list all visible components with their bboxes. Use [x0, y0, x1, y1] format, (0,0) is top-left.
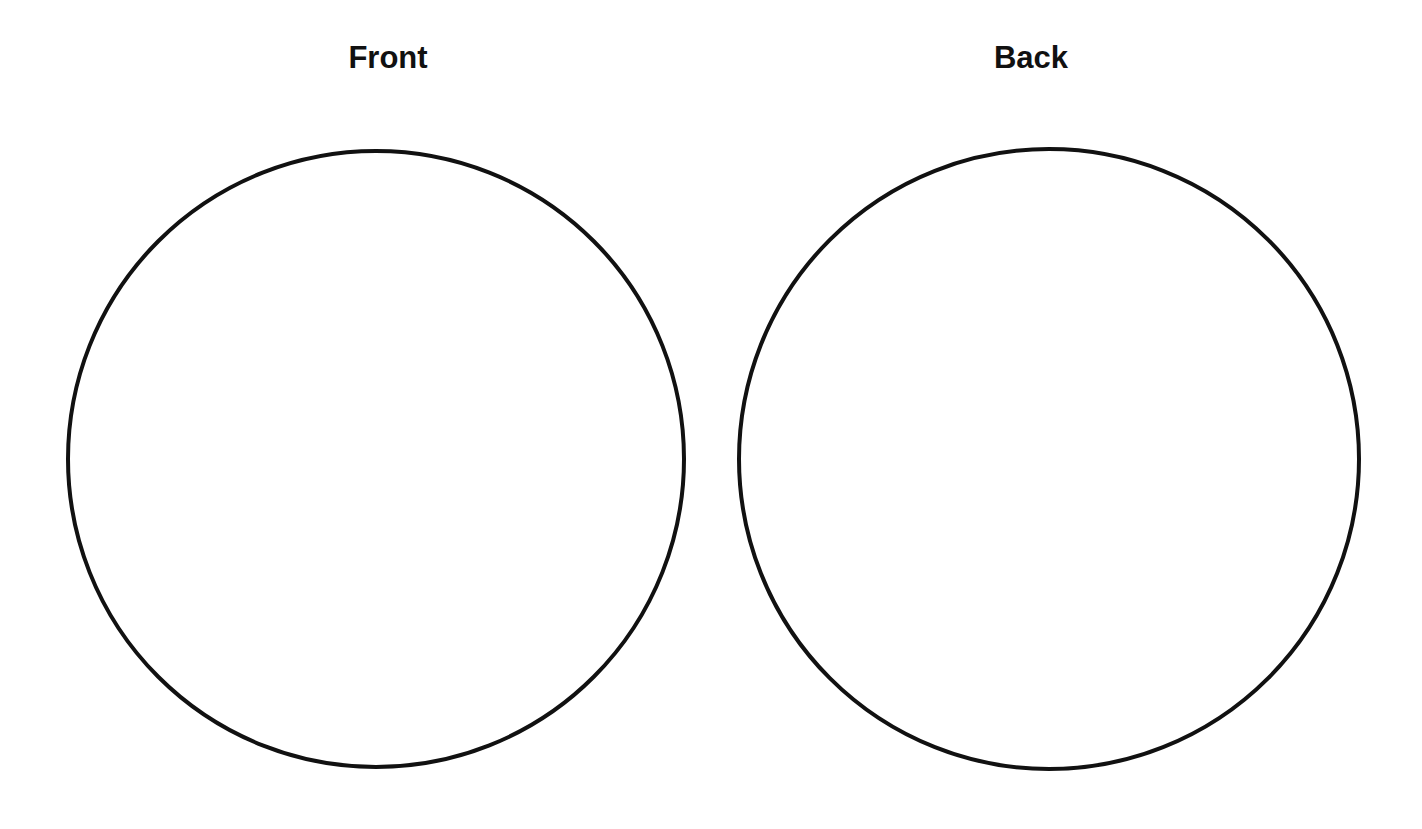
diagram-canvas [0, 0, 1422, 829]
back-circle [739, 149, 1359, 769]
front-circle [68, 151, 684, 767]
